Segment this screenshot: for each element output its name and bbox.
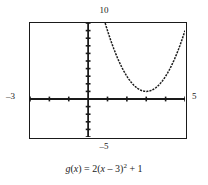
plot-frame xyxy=(29,22,187,139)
x-axis-max-label: 5 xyxy=(192,92,197,101)
y-axis-min-label: –5 xyxy=(0,142,208,151)
inner-operator: – xyxy=(105,163,115,174)
parabola-plot xyxy=(30,23,185,137)
x-axis-min-label: –3 xyxy=(6,92,15,101)
parabola-curve xyxy=(105,23,185,91)
tail-constant: 1 xyxy=(138,163,143,174)
equation-caption: g(x) = 2(x – 3)2 + 1 xyxy=(0,162,208,175)
equals-sign: = xyxy=(82,163,93,174)
figure-container: 10 –3 5 –5 g(x) = 2(x – 3)2 + 1 xyxy=(0,0,208,185)
tail-operator: + xyxy=(127,163,138,174)
y-axis-max-label: 10 xyxy=(0,6,208,15)
